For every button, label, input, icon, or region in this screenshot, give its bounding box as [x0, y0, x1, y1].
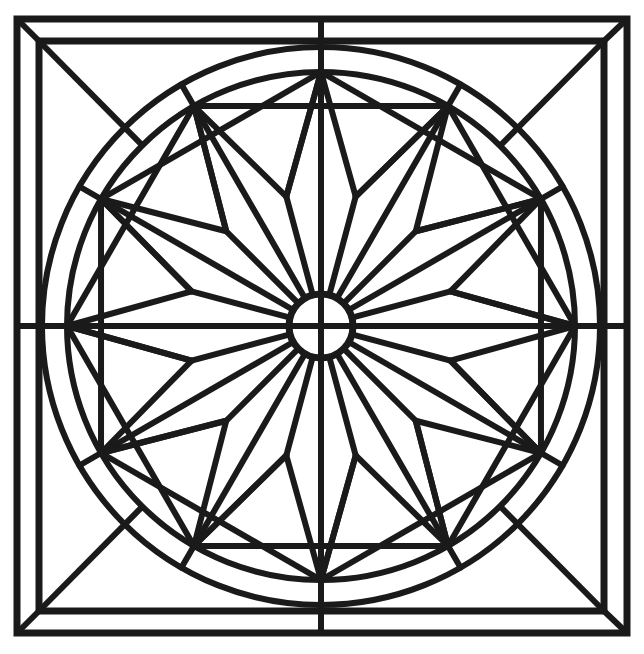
- star-valley-spoke-6: [286, 357, 312, 456]
- star-valley-spoke-3: [352, 334, 451, 360]
- corner-diagonal-ray-3: [500, 506, 604, 611]
- star-valley-spoke-8: [192, 334, 291, 360]
- star-valley-spoke-9: [192, 291, 291, 317]
- corner-diagonal-ray-1: [500, 41, 604, 146]
- corner-diagonal-ray-2: [39, 507, 142, 611]
- star-valley-spoke-11: [286, 197, 312, 296]
- corner-diagonal-ray-0: [39, 41, 142, 145]
- star-valley-spoke-5: [329, 357, 355, 456]
- artwork-canvas: [0, 0, 644, 654]
- star-valley-spoke-0: [329, 197, 355, 296]
- star-valley-spoke-2: [352, 291, 451, 317]
- rosette-drawing: [0, 0, 644, 654]
